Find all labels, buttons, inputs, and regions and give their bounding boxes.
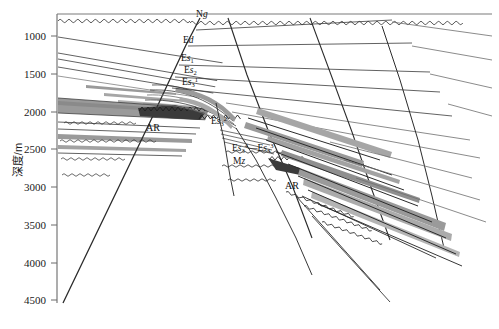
bedding-line (179, 65, 430, 72)
axis-tick-1500: 1500 (24, 68, 57, 80)
geological-cross-section-figure: 1000 1500 2000 2500 3000 3500 (0, 0, 499, 329)
ng-wavy-left (58, 19, 190, 22)
axis-tick-3000: 3000 (24, 181, 57, 193)
axis-tick-label: 2000 (24, 106, 47, 118)
sand-streak (58, 145, 186, 152)
ng-unconformity-surface (58, 19, 463, 24)
label-mz: Mz (233, 156, 245, 166)
label-es3-4-es3-3: Es34—Es33 (232, 142, 274, 154)
label-ed: Ed (183, 35, 194, 45)
axis-tick-2500: 2500 (24, 143, 57, 155)
label-ar-right: AR (285, 180, 299, 191)
label-es3-2: Es32 (211, 115, 227, 127)
basement-unconformity-wavy (322, 221, 383, 245)
axis-tick-label: 3000 (24, 181, 47, 193)
sand-streak (58, 134, 192, 143)
bedding-line (58, 53, 225, 82)
internal-unconformity (62, 174, 110, 177)
axis-tick-label: 2500 (24, 143, 47, 155)
label-ng: Ng (196, 9, 208, 19)
bedding-line (58, 59, 222, 88)
label-es2: Es2 (184, 65, 197, 76)
depth-axis: 1000 1500 2000 2500 3000 3500 (11, 14, 57, 306)
axis-tick-label: 4500 (24, 294, 47, 306)
label-ar-left: AR (146, 122, 160, 133)
bedding-line (58, 122, 200, 128)
bedding-line (58, 37, 230, 64)
fault-plane-lower (296, 196, 380, 290)
cross-section-canvas: 1000 1500 2000 2500 3000 3500 (0, 0, 499, 329)
axis-tick-4500: 4500 (24, 294, 57, 306)
axis-tick-2000: 2000 (24, 106, 57, 118)
fault-plane-lower (312, 216, 390, 302)
bedding-line (412, 46, 492, 60)
label-es1: Es1 (181, 53, 194, 64)
upper-hanging-wall-beds (172, 20, 480, 158)
bedding-line (58, 129, 196, 134)
axis-tick-label: 3500 (24, 219, 47, 231)
axis-tick-3500: 3500 (24, 219, 57, 231)
bedding-line (448, 104, 492, 116)
axis-tick-label: 1000 (24, 30, 47, 42)
label-es3-1: Es31 (182, 76, 198, 88)
bedding-line (188, 43, 412, 46)
axis-tick-1000: 1000 (24, 30, 57, 42)
axis-tick-4000: 4000 (24, 257, 57, 269)
bedding-line (58, 153, 182, 156)
axis-tick-label: 4000 (24, 257, 47, 269)
internal-unconformity (61, 158, 125, 161)
axis-tick-label: 1500 (24, 68, 47, 80)
mz-unconformity (228, 179, 276, 181)
bedding-line (196, 20, 392, 30)
axis-title-depth: 深度/m (11, 143, 24, 177)
bedding-line (430, 74, 492, 88)
